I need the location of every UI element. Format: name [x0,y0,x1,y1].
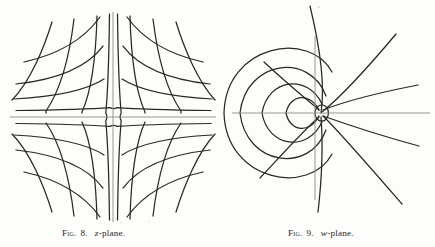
figure-9-caption-plane: w-plane. [321,228,354,238]
curve-hyperbola-a8 [46,123,74,216]
figure-9-plane-word: -plane. [327,228,354,238]
curve-hyperbola-a9 [153,19,181,113]
scan-speck [148,221,150,222]
curve-hyperbola-a14 [176,134,215,212]
curve-radial-1 [310,6,323,113]
curve-hyperbola-b9 [16,150,103,188]
curve-hyperbola-b11 [24,17,100,62]
curve-radial-3 [323,85,418,110]
figure-8 [0,0,222,247]
curve-hyperbola-a7 [46,19,74,113]
scan-speck [120,222,122,223]
curve-radial-8 [318,117,322,212]
figure-8-caption-number: 8. [81,228,88,238]
figure-8-caption-prefix: Fig. [62,228,77,238]
curve-hyperbola-a10 [153,123,181,216]
figure-8-canvas [0,0,222,247]
scan-speck [318,6,320,8]
curve-hyperbola-a13 [176,22,215,100]
figure-9-caption-number: 9. [307,228,314,238]
figure-9 [222,0,435,247]
figure-9-caption-prefix: Fig. [288,228,303,238]
figure-8-caption-plane: z-plane. [95,228,125,238]
curve-hyperbola-a11 [12,22,52,100]
figure-page: Fig.8.z-plane. Fig.9.w-plane. [0,0,435,247]
figure-8-caption: Fig.8.z-plane. [62,228,125,238]
curve-hyperbola-b13 [24,172,100,217]
figure-8-plane-word: -plane. [99,228,126,238]
curve-hyperbola-b1 [16,108,211,111]
figure-9-caption: Fig.9.w-plane. [288,228,354,238]
curve-hyperbola-b12 [127,17,203,62]
curve-hyperbola-b14 [127,172,203,217]
curve-hyperbola-a3 [82,16,97,113]
curve-radial-2 [322,34,396,112]
figure-9-canvas [222,0,435,247]
curve-hyperbola-a12 [12,134,52,212]
curve-hyperbola-b2 [16,124,211,127]
curve-hyperbola-b7 [16,46,103,84]
